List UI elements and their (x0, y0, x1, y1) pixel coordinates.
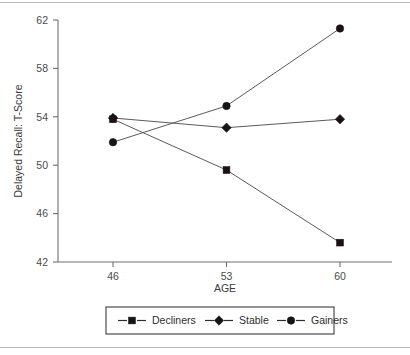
x-axis-ticks: 465360 (107, 262, 346, 282)
series-stable (108, 113, 344, 132)
legend-label: Stable (239, 314, 269, 326)
circle-marker-icon (287, 317, 294, 324)
diamond-marker-icon (222, 123, 231, 132)
y-tick-label: 62 (36, 14, 48, 26)
diamond-marker-icon (335, 115, 344, 124)
circle-marker-icon (223, 102, 230, 109)
y-tick-label: 54 (36, 111, 48, 123)
x-tick-label: 60 (334, 270, 346, 282)
chart-legend: DeclinersStableGainers (106, 307, 348, 334)
series-decliners (110, 116, 344, 246)
top-divider-rule (0, 2, 410, 3)
legend-label: Gainers (311, 314, 348, 326)
x-tick-label: 53 (221, 270, 233, 282)
bottom-divider-rule (0, 347, 410, 348)
series-layer (108, 25, 344, 246)
chart-figure: 424650545862 465360 Delayed Recall: T-Sc… (0, 0, 410, 355)
y-tick-label: 58 (36, 62, 48, 74)
circle-marker-icon (109, 138, 116, 145)
x-axis-title: AGE (214, 282, 236, 294)
circle-marker-icon (336, 25, 343, 32)
y-tick-label: 42 (36, 256, 48, 268)
legend-label: Decliners (152, 314, 196, 326)
y-tick-label: 46 (36, 207, 48, 219)
line-chart-plot: 424650545862 465360 Delayed Recall: T-Sc… (0, 0, 410, 355)
y-tick-label: 50 (36, 159, 48, 171)
y-axis-ticks: 424650545862 (36, 14, 58, 268)
y-axis-title: Delayed Recall: T-Score (12, 84, 24, 197)
square-marker-icon (129, 317, 136, 324)
square-marker-icon (223, 167, 230, 174)
x-tick-label: 46 (107, 270, 119, 282)
series-line-decliners (113, 119, 340, 242)
square-marker-icon (337, 239, 344, 246)
